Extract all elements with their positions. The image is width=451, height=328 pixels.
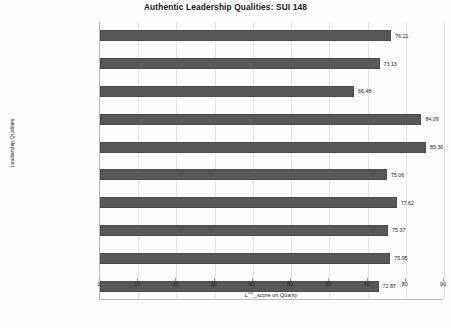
x-axis-tick-label: 20 — [172, 281, 178, 287]
x-axis-tick-label: 30 — [211, 281, 217, 287]
bar[interactable] — [100, 169, 387, 180]
x-axis-tick-label: 90 — [440, 281, 446, 287]
x-axis-tick-label: 60 — [325, 281, 331, 287]
bar[interactable] — [100, 114, 421, 125]
bar-chart: Authentic Leadership Qualities: SUI 148 … — [0, 0, 451, 328]
bar-value-label: 75.37 — [392, 227, 405, 233]
bar-value-label: 76.21 — [395, 33, 408, 39]
bar-value-label: 72.87 — [383, 283, 396, 289]
y-axis-title: Leadership Qualities — [9, 98, 15, 188]
x-axis-tick-mark — [328, 278, 329, 281]
x-axis-tick-label: 10 — [134, 281, 140, 287]
x-axis-tick-mark — [137, 278, 138, 281]
bar-value-label: 75.95 — [394, 255, 407, 261]
x-axis-tick-mark — [443, 278, 444, 281]
bar-value-label: 73.13 — [384, 61, 397, 67]
x-axis-tick-label: 70 — [364, 281, 370, 287]
x-axis-tick-mark — [405, 278, 406, 281]
bar-value-label: 75.06 — [391, 172, 404, 178]
bar-row: 75.95Commitment — [100, 244, 443, 272]
plot-area: 76.21Leadership Mean Score73.13Accountab… — [99, 22, 443, 300]
bar-value-label: 84.09 — [425, 116, 438, 122]
bar-value-label: 66.48 — [358, 88, 371, 94]
gridline — [444, 22, 445, 299]
x-axis-tick-mark — [290, 278, 291, 281]
x-axis-tick-mark — [252, 278, 253, 281]
x-axis-tick-mark — [99, 278, 100, 281]
bar-value-label: 85.30 — [430, 144, 443, 150]
x-axis-tick-label: 0 — [98, 281, 101, 287]
bar-row: 72.87Confidence — [100, 272, 443, 300]
bar[interactable] — [100, 142, 426, 153]
bar-value-label: 77.62 — [401, 200, 414, 206]
bar[interactable] — [100, 281, 379, 292]
chart-title: Authentic Leadership Qualities: SUI 148 — [0, 2, 451, 12]
x-axis-tick-mark — [175, 278, 176, 281]
bar-row: 73.13Accountability** — [100, 50, 443, 78]
bar[interactable] — [100, 253, 390, 264]
bar-row: 66.48Innovation and creative thinking — [100, 78, 443, 106]
bar-row: 76.21Leadership Mean Score — [100, 22, 443, 50]
x-axis-tick-mark — [367, 278, 368, 281]
bar[interactable] — [100, 86, 354, 97]
bar-row: 77.62Capacity to inspire others — [100, 189, 443, 217]
bar[interactable] — [100, 58, 380, 69]
bar[interactable] — [100, 225, 388, 236]
bar[interactable] — [100, 30, 391, 41]
bar-row: 75.37Decision making capability — [100, 217, 443, 245]
bar-row: 75.06Honesty and integrity** — [100, 161, 443, 189]
bar[interactable] — [100, 197, 397, 208]
x-axis-tick-label: 50 — [287, 281, 293, 287]
bar-row: 85.30Good communication skills — [100, 133, 443, 161]
x-axis-tick-label: 80 — [402, 281, 408, 287]
bar-row: 84.09Empathy** — [100, 105, 443, 133]
x-axis-tick-label: 40 — [249, 281, 255, 287]
x-axis-tick-mark — [214, 278, 215, 281]
